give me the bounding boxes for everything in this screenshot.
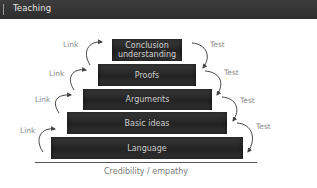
arrows (0, 0, 317, 188)
link-arrow-1 (86, 42, 102, 65)
test-arrow-3 (222, 97, 237, 121)
test-arrow-2 (205, 71, 221, 95)
baseline (35, 162, 257, 163)
link-arrow-4 (39, 129, 55, 152)
test-arrow-4 (237, 123, 252, 152)
link-arrow-3 (55, 95, 71, 113)
base-caption: Credibility / empathy (0, 167, 292, 176)
test-arrow-1 (192, 43, 207, 68)
link-arrow-2 (70, 70, 86, 90)
